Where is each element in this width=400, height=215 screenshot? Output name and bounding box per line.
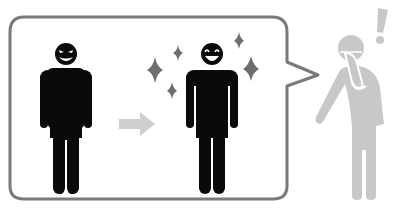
exclamation-icon — [377, 8, 388, 33]
illustration-canvas — [0, 0, 400, 215]
head-icon — [201, 43, 223, 65]
gray-body-icon — [316, 65, 385, 200]
exclamation-dot-icon — [376, 36, 384, 44]
surprised-person — [316, 8, 389, 200]
head-icon — [55, 43, 77, 65]
